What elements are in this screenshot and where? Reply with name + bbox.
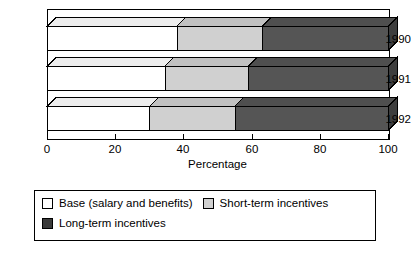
legend-swatch-long-term-icon xyxy=(42,218,53,229)
legend-label-short-term: Short-term incentives xyxy=(220,197,329,210)
xtick-label-100: 100 xyxy=(368,143,408,155)
xtick-label-0: 0 xyxy=(27,143,67,155)
stacked-bar-chart: 1990 1991 1992 0 20 40 60 80 100 Percent… xyxy=(0,0,411,254)
plot-area-frame xyxy=(47,9,390,140)
xtick-label-80: 80 xyxy=(300,143,340,155)
legend-label-long-term: Long-term incentives xyxy=(59,217,166,230)
category-label-1991: 1991 xyxy=(369,73,411,85)
legend-item-base: Base (salary and benefits) xyxy=(42,197,193,210)
xtick-label-40: 40 xyxy=(163,143,203,155)
xtick-label-20: 20 xyxy=(95,143,135,155)
legend-swatch-short-term-icon xyxy=(203,198,214,209)
legend-swatch-base-icon xyxy=(42,198,53,209)
legend: Base (salary and benefits) Short-term in… xyxy=(34,190,376,241)
legend-row-2: Long-term incentives xyxy=(42,217,176,230)
legend-label-base: Base (salary and benefits) xyxy=(59,197,193,210)
category-label-1990: 1990 xyxy=(369,33,411,45)
legend-row-1: Base (salary and benefits) Short-term in… xyxy=(42,197,338,210)
category-label-1992: 1992 xyxy=(369,113,411,125)
x-axis-title: Percentage xyxy=(47,158,388,171)
legend-item-long-term: Long-term incentives xyxy=(42,217,166,230)
legend-item-short-term: Short-term incentives xyxy=(203,197,329,210)
xtick-label-60: 60 xyxy=(232,143,272,155)
